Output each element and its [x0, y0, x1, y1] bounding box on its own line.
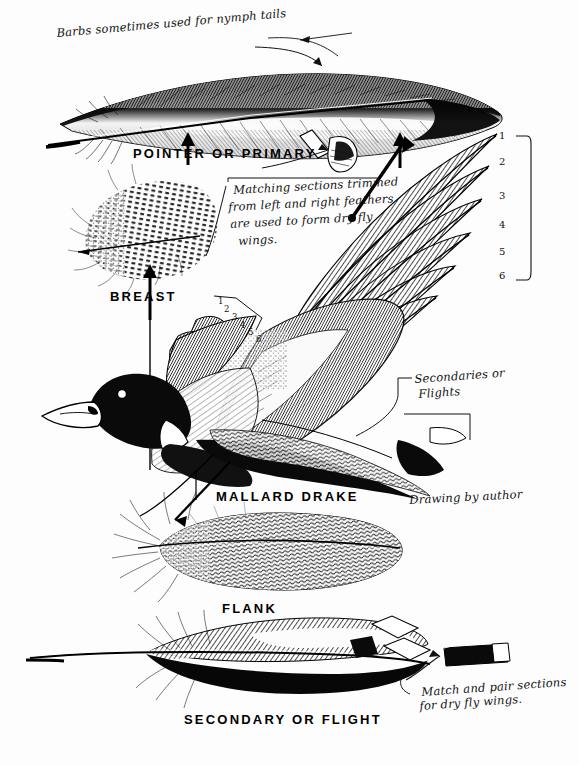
matching-note-line-4: wings. [238, 232, 278, 249]
primary-number-2: 2 [499, 156, 505, 167]
label-secondary-or-flight: SECONDARY OR FLIGHT [184, 712, 382, 727]
flank-feather [112, 492, 420, 602]
primary-number-3: 3 [499, 190, 505, 201]
primary-number-5: 5 [499, 246, 505, 257]
primary-number-6: 6 [499, 270, 505, 281]
shoulder-number-6: 6 [256, 334, 261, 344]
illustration-plate: Barbs sometimes used for nymph tails POI… [0, 0, 579, 765]
secondaries-note-line-2: Flights [418, 384, 461, 401]
shoulder-number-1: 1 [218, 296, 223, 306]
shoulder-number-3: 3 [232, 312, 237, 322]
barbs-leader-line [255, 33, 352, 66]
primary-number-4: 4 [499, 219, 505, 230]
primary-number-1: 1 [499, 130, 505, 141]
shoulder-number-2: 2 [224, 304, 229, 314]
label-pointer-or-primary: POINTER OR PRIMARY [133, 146, 317, 161]
primaries-bracket [516, 136, 531, 280]
shoulder-number-5: 5 [248, 327, 253, 337]
plate-artwork [0, 0, 579, 765]
label-breast: BREAST [110, 289, 177, 304]
shoulder-number-4: 4 [240, 320, 245, 330]
label-flank: FLANK [222, 601, 277, 616]
label-mallard-drake: MALLARD DRAKE [216, 489, 359, 504]
